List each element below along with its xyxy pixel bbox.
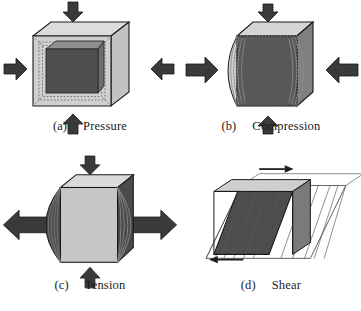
compression-diagram bbox=[181, 0, 361, 124]
panel-tension: (c) Tension bbox=[0, 156, 180, 311]
panel-compression: (b) Compression bbox=[181, 0, 361, 155]
arrow-bottom-shear-left bbox=[209, 256, 243, 263]
arrow-right-out bbox=[133, 210, 176, 240]
compression-cube bbox=[228, 22, 313, 106]
shear-diagram bbox=[181, 156, 361, 280]
pressure-cube-inner bbox=[46, 41, 104, 93]
panel-title-d: Shear bbox=[272, 278, 301, 293]
shear-block bbox=[206, 174, 361, 259]
arrow-top-down bbox=[80, 156, 100, 175]
panel-shear: (d) Shear bbox=[181, 156, 361, 311]
caption-tension: (c) Tension bbox=[0, 278, 180, 302]
arrow-top-down bbox=[258, 4, 278, 22]
caption-shear: (d) Shear bbox=[181, 278, 361, 302]
panel-index-b: (b) bbox=[221, 119, 236, 134]
tension-cube bbox=[46, 175, 134, 263]
panel-pressure: (a) Pressure bbox=[0, 0, 180, 155]
arrow-top-shear-right bbox=[259, 165, 293, 172]
arrow-right-left bbox=[326, 57, 358, 83]
panel-index-d: (d) bbox=[241, 278, 256, 293]
panel-index-c: (c) bbox=[55, 278, 69, 293]
arrow-left-right bbox=[4, 58, 27, 80]
tension-diagram bbox=[0, 156, 180, 280]
panel-title-c: Tension bbox=[85, 278, 126, 293]
arrow-left-right bbox=[186, 57, 218, 83]
arrow-right-left bbox=[151, 58, 174, 80]
pressure-diagram bbox=[0, 0, 180, 124]
panel-title-b: Compression bbox=[252, 119, 320, 134]
caption-compression: (b) Compression bbox=[181, 119, 361, 143]
caption-pressure: (a) Pressure bbox=[0, 119, 180, 143]
arrow-top-down bbox=[63, 2, 83, 22]
panel-title-a: Pressure bbox=[83, 119, 127, 134]
stress-types-figure: (a) Pressure bbox=[0, 0, 361, 311]
panel-index-a: (a) bbox=[53, 119, 67, 134]
arrow-left-out bbox=[3, 210, 46, 240]
